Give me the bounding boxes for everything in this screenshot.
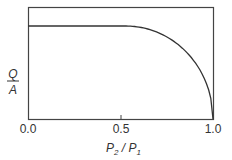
data-curve [28, 26, 213, 119]
x-tick-label-2: 1.0 [205, 122, 222, 136]
chart: 0.0 0.5 1.0 P2 / P1 Q A [0, 0, 232, 160]
y-axis-denominator: A [8, 83, 17, 97]
plot-frame [29, 8, 214, 120]
y-axis-numerator: Q [8, 67, 17, 81]
x-tick-label-1: 0.5 [113, 122, 130, 136]
x-axis-label: P2 / P1 [106, 141, 141, 157]
x-tick-label-0: 0.0 [20, 122, 37, 136]
